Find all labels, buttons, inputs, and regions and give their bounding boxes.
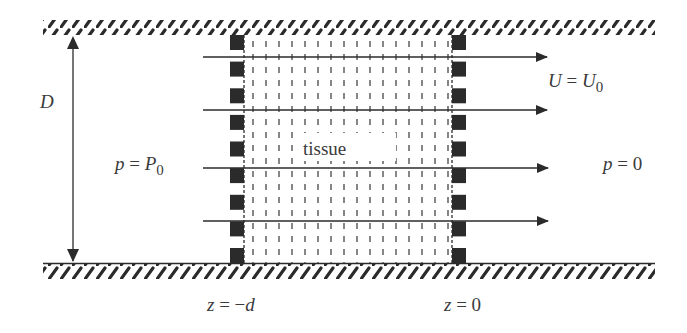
tissue-label: tissue xyxy=(303,138,346,159)
membrane-block xyxy=(230,221,244,236)
membrane-block xyxy=(230,35,244,50)
tissue-flow-diagram: D p = P0 U = U0 tissue p = 0 z = −d z = … xyxy=(0,0,687,333)
membrane-block xyxy=(230,142,244,157)
left-eq: = − xyxy=(214,294,245,315)
left-d-var: d xyxy=(245,294,255,315)
right-membrane xyxy=(452,35,466,263)
membrane-block xyxy=(230,88,244,103)
membrane-block xyxy=(452,35,466,50)
outlet-pressure-label: p = 0 xyxy=(601,153,642,174)
velocity-subscript: 0 xyxy=(596,79,604,95)
membrane-block xyxy=(230,62,244,77)
right-boundary-label: z = 0 xyxy=(443,294,481,315)
membrane-block xyxy=(452,248,466,263)
bottom-wall xyxy=(43,264,655,280)
membrane-block xyxy=(452,88,466,103)
membrane-block xyxy=(452,221,466,236)
outlet-eq-value: = 0 xyxy=(613,153,643,174)
membrane-block xyxy=(452,168,466,183)
membrane-block xyxy=(452,195,466,210)
outlet-p-var: p xyxy=(601,153,613,174)
top-wall xyxy=(43,20,655,35)
membrane-block xyxy=(230,195,244,210)
right-eq-value: = 0 xyxy=(451,294,481,315)
inlet-P-var: P xyxy=(144,153,157,174)
velocity-label: U = U0 xyxy=(548,70,603,95)
inlet-p-var: p xyxy=(113,153,125,174)
tissue-region xyxy=(244,35,452,263)
left-boundary-label: z = −d xyxy=(206,294,255,315)
membrane-block xyxy=(452,62,466,77)
inlet-pressure-label: p = P0 xyxy=(113,153,164,178)
inlet-subscript: 0 xyxy=(156,162,164,178)
membrane-block xyxy=(230,115,244,130)
inlet-eq: = xyxy=(125,153,145,174)
height-dimension-arrow xyxy=(67,36,79,262)
velocity-eq: = xyxy=(562,70,582,91)
membrane-block xyxy=(452,115,466,130)
left-membrane xyxy=(230,35,244,263)
membrane-block xyxy=(230,168,244,183)
membrane-block xyxy=(452,142,466,157)
height-label: D xyxy=(39,91,54,112)
membrane-block xyxy=(230,248,244,263)
